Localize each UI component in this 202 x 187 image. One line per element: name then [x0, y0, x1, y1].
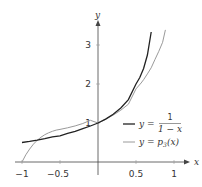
legend-label-numerator: 1 — [167, 113, 172, 122]
y-tick-label: 2 — [85, 79, 91, 89]
y-tick-label: 3 — [85, 40, 91, 50]
x-tick-label: −0.5 — [47, 169, 69, 179]
legend-label-p3: y = p3(x) — [138, 137, 180, 148]
x-tick-label: −1 — [15, 169, 28, 179]
y-axis-arrow-icon — [96, 20, 101, 26]
x-tick-label: 0.5 — [129, 169, 143, 179]
x-axis-arrow-icon — [184, 160, 190, 165]
x-axis-label: x — [194, 157, 199, 167]
legend-label-denominator: 1 − x — [158, 124, 182, 134]
legend-label-reciprocal-prefix: y = — [138, 119, 155, 129]
legend: y = 1 1 − x y = p3(x) — [123, 113, 182, 148]
x-tick-label: 1 — [171, 169, 177, 179]
y-axis-label: y — [94, 10, 101, 20]
x-ticks: −1 −0.5 0.5 1 — [15, 160, 177, 179]
chart: x y −1 −0.5 0.5 1 1 2 3 y = 1 1 − x y = … — [0, 0, 202, 187]
